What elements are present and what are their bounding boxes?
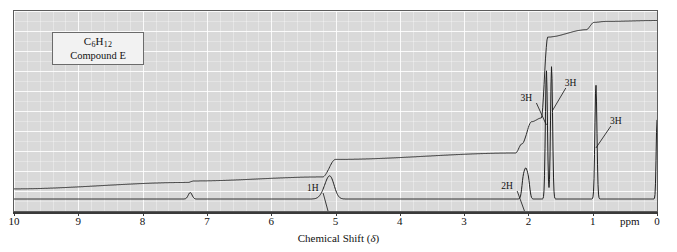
plot-area: C6H12 Compound E bbox=[13, 10, 658, 212]
x-tick-label: 3 bbox=[461, 215, 467, 227]
compound-label-box: C6H12 Compound E bbox=[52, 32, 144, 65]
integral-annotation: 3H bbox=[565, 78, 577, 88]
x-tick-label: 6 bbox=[268, 215, 274, 227]
nmr-spectrum-figure: C6H12 Compound E 109876543210 ppm Chemic… bbox=[0, 0, 677, 252]
formula-h-count: 12 bbox=[104, 40, 112, 49]
annotation-leader-lines bbox=[323, 88, 611, 211]
x-axis-title: Chemical Shift (δ) bbox=[0, 232, 677, 244]
x-tick-label: 1 bbox=[590, 215, 596, 227]
integral-annotation: 1H bbox=[307, 183, 319, 193]
leader-line bbox=[553, 88, 566, 110]
x-axis-title-text: Chemical Shift ( bbox=[298, 232, 371, 244]
x-axis-unit-label: ppm bbox=[620, 215, 640, 227]
leader-line bbox=[536, 103, 546, 125]
molecular-formula: C6H12 bbox=[84, 35, 112, 50]
integral-annotation: 2H bbox=[501, 181, 513, 191]
integral-annotation: 3H bbox=[610, 116, 622, 126]
x-tick-label: 4 bbox=[397, 215, 403, 227]
formula-h: H bbox=[96, 35, 104, 47]
leader-line bbox=[596, 126, 611, 148]
x-tick-label: 7 bbox=[204, 215, 210, 227]
integral-annotation: 3H bbox=[520, 93, 532, 103]
x-axis-title-close: ) bbox=[376, 232, 380, 244]
spectrum-trace bbox=[14, 67, 657, 199]
x-tick-label: 0 bbox=[654, 215, 660, 227]
x-tick-label: 2 bbox=[526, 215, 532, 227]
x-tick-label: 5 bbox=[333, 215, 339, 227]
x-tick-label: 8 bbox=[140, 215, 146, 227]
leader-line bbox=[323, 193, 329, 211]
x-tick-label: 9 bbox=[76, 215, 82, 227]
x-tick-label: 10 bbox=[9, 215, 20, 227]
compound-name: Compound E bbox=[70, 50, 126, 62]
